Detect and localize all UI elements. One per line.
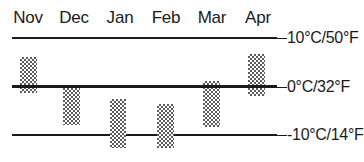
axis-label-0c: 0°C/32°F — [287, 78, 350, 96]
axis-label-neg10c: -10°C/14°F — [287, 126, 364, 144]
gridline-0c — [12, 85, 277, 88]
axis-label-10c: 10°C/50°F — [287, 29, 358, 47]
